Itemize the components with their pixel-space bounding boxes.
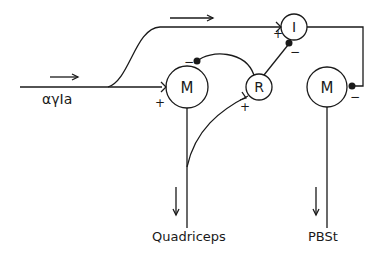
r-plus-sign: +	[240, 100, 250, 114]
r-to-m1-inhibition	[197, 54, 254, 75]
input-label: αγIa	[42, 91, 72, 107]
m2-label: M	[321, 79, 334, 97]
m1-minus-sign: −	[184, 55, 194, 69]
r-to-i-inhibition	[264, 45, 288, 75]
circuit-diagram: M R I M + − + + − − αγIa Quadriceps PBSt	[0, 0, 385, 254]
r-label: R	[254, 79, 264, 95]
m2-minus-sign: −	[350, 90, 360, 104]
i-minus-sign: −	[290, 45, 300, 59]
i-to-m2-inhibition	[307, 27, 363, 86]
m1-inhib-dot	[194, 58, 201, 65]
i-plus-sign: +	[273, 27, 283, 41]
quadriceps-label: Quadriceps	[152, 229, 226, 244]
pbst-label: PBSt	[308, 229, 338, 244]
i-label: I	[292, 19, 296, 35]
collateral-to-r	[187, 96, 248, 167]
m1-label: M	[181, 79, 194, 97]
m1-plus-sign: +	[155, 96, 165, 110]
m2-inhib-dot	[349, 83, 356, 90]
r-excit-synapse	[240, 92, 246, 100]
branch-to-i	[108, 27, 281, 87]
